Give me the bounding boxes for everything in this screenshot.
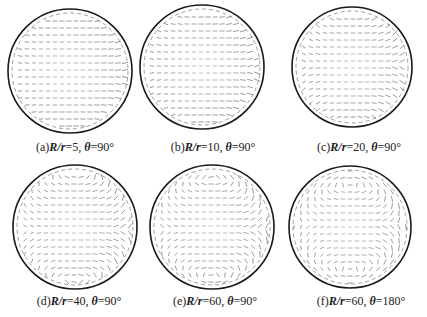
panel-b xyxy=(140,5,264,129)
velocity-vector xyxy=(334,261,338,263)
velocity-vector xyxy=(266,230,268,236)
velocity-vector xyxy=(202,281,207,282)
velocity-vector xyxy=(378,89,383,90)
velocity-vector xyxy=(189,175,192,178)
velocity-vector xyxy=(115,49,121,50)
velocity-vector xyxy=(391,239,394,244)
velocity-vector xyxy=(371,33,376,34)
velocity-vector xyxy=(32,112,37,113)
velocity-vector xyxy=(122,69,128,70)
velocity-vector xyxy=(302,67,306,69)
velocity-vector xyxy=(106,246,111,248)
velocity-vector xyxy=(183,182,184,186)
velocity-vector xyxy=(361,275,366,277)
velocity-vector xyxy=(230,260,235,261)
velocity-vector xyxy=(309,95,313,97)
velocity-vector xyxy=(202,183,207,184)
velocity-vector xyxy=(188,247,192,248)
velocity-vector xyxy=(330,33,335,34)
velocity-vector xyxy=(233,38,239,39)
velocity-vector xyxy=(302,53,305,55)
velocity-vector xyxy=(250,225,256,228)
velocity-vector xyxy=(236,219,242,220)
velocity-vector xyxy=(308,253,309,258)
velocity-vector xyxy=(121,210,125,214)
velocity-vector xyxy=(122,62,128,63)
velocity-vector xyxy=(164,94,168,95)
velocity-vector xyxy=(174,211,178,212)
velocity-vector xyxy=(108,105,113,106)
velocity-vector xyxy=(369,206,374,207)
velocity-vector xyxy=(233,107,239,108)
velocity-vector xyxy=(254,65,259,67)
velocity-vector xyxy=(157,52,161,53)
velocity-vector xyxy=(51,254,55,255)
velocity-vector xyxy=(330,109,334,110)
velocity-vector xyxy=(316,25,319,28)
velocity-vector xyxy=(371,96,376,97)
velocity-vector xyxy=(376,234,381,235)
velocity-vector xyxy=(65,280,69,284)
velocity-vector xyxy=(259,244,261,249)
velocity-vector xyxy=(315,253,316,258)
velocity-vector xyxy=(25,105,30,106)
velocity-vector xyxy=(384,196,385,202)
velocity-vector xyxy=(168,245,171,248)
velocity-vector xyxy=(226,31,232,32)
velocity-vector xyxy=(244,196,248,199)
velocity-vector xyxy=(307,211,309,215)
velocity-vector xyxy=(169,189,170,193)
velocity-vector xyxy=(316,39,320,40)
velocity-vector xyxy=(398,231,400,236)
velocity-vector xyxy=(100,190,105,192)
velocity-vector xyxy=(363,182,365,187)
velocity-vector xyxy=(108,49,114,50)
velocity-vector xyxy=(175,182,177,186)
velocity-vector xyxy=(398,224,400,229)
velocity-vector xyxy=(320,234,324,235)
velocity-vector xyxy=(390,232,394,236)
velocity-vector xyxy=(237,189,241,192)
velocity-vector xyxy=(369,275,373,278)
velocity-vector xyxy=(101,174,103,180)
velocity-vector xyxy=(208,176,213,177)
velocity-vector xyxy=(386,82,391,83)
velocity-vector xyxy=(37,219,41,220)
velocity-vector xyxy=(301,246,302,250)
velocity-vector xyxy=(167,225,171,227)
velocity-vector xyxy=(108,35,114,36)
velocity-vector xyxy=(37,204,41,206)
velocity-vector xyxy=(320,197,323,200)
velocity-vector xyxy=(92,198,97,199)
velocity-vector xyxy=(385,39,390,41)
velocity-vector xyxy=(216,175,220,179)
velocity-vector xyxy=(252,195,254,201)
velocity-vector xyxy=(236,212,241,213)
velocity-vector xyxy=(92,254,97,255)
velocity-vector xyxy=(392,53,398,55)
panel-f xyxy=(289,166,411,288)
velocity-vector xyxy=(174,218,178,219)
velocity-vector xyxy=(383,204,386,208)
velocity-vector xyxy=(233,23,239,25)
velocity-vector xyxy=(30,225,34,226)
velocity-vector xyxy=(106,239,112,240)
velocity-vector xyxy=(375,227,380,228)
velocity-vector xyxy=(386,46,391,47)
velocity-vector xyxy=(32,28,36,29)
velocity-vector xyxy=(328,260,331,264)
velocity-vector xyxy=(323,89,327,90)
velocity-vector xyxy=(335,267,336,271)
velocity-vector xyxy=(174,239,178,240)
velocity-vector xyxy=(247,58,253,59)
wall-vector-ring xyxy=(144,9,260,125)
velocity-vector xyxy=(58,274,62,276)
velocity-vector xyxy=(364,26,369,27)
velocity-vector xyxy=(376,205,381,207)
velocity-vector xyxy=(79,280,83,284)
velocity-vector xyxy=(391,196,392,202)
velocity-vector xyxy=(245,265,246,270)
velocity-vector xyxy=(113,239,118,241)
velocity-vector xyxy=(240,73,245,74)
velocity-vector xyxy=(313,226,317,228)
